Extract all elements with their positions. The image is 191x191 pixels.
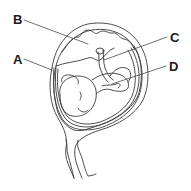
label-a: A: [13, 53, 22, 66]
label-d: D: [169, 60, 178, 73]
leader-line-a: [24, 59, 52, 70]
cervix: [66, 140, 74, 178]
amniotic-membrane: [53, 46, 142, 130]
fetus-uterus-diagram: B A C D: [0, 0, 191, 191]
label-c: C: [170, 31, 179, 44]
diagram-drawing: [0, 0, 191, 191]
leader-line-b: [24, 20, 88, 44]
fetus-head: [60, 76, 97, 116]
placenta: [62, 30, 135, 52]
umbilical-cord: [98, 52, 108, 82]
label-b: B: [13, 13, 22, 26]
